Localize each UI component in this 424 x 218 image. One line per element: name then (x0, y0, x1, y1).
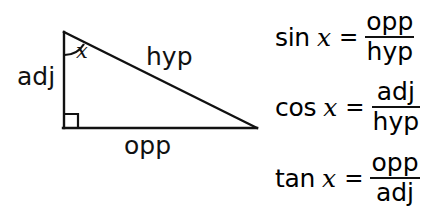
sin-fraction: opp hyp (365, 9, 414, 66)
sin-argument: x (317, 25, 331, 50)
tan-argument: x (322, 166, 336, 191)
formula-sin: sin x = opp hyp (275, 7, 414, 67)
sin-function-name: sin (275, 25, 310, 50)
tan-denominator: adj (375, 180, 415, 207)
tan-fraction: opp adj (370, 150, 419, 207)
cos-argument: x (323, 95, 337, 120)
right-angle-marker-icon (64, 114, 78, 128)
cos-equals-sign: = (345, 96, 364, 119)
sin-equals-sign: = (339, 26, 358, 49)
cos-numerator: adj (376, 79, 416, 106)
tan-function-name: tan (275, 166, 315, 191)
cos-denominator: hyp (372, 109, 421, 136)
trigonometry-figure: adj hyp opp x sin x = opp hyp cos x = ad… (0, 0, 424, 218)
right-triangle-diagram: adj hyp opp x (0, 0, 268, 218)
formula-tan: tan x = opp adj (275, 148, 420, 208)
sin-denominator: hyp (366, 39, 415, 66)
hypotenuse-side-label: hyp (146, 44, 193, 69)
trig-formula-list: sin x = opp hyp cos x = adj hyp tan x = (268, 0, 424, 218)
triangle-svg (0, 0, 268, 218)
formula-cos: cos x = adj hyp (275, 77, 420, 137)
sin-numerator: opp (365, 9, 414, 36)
cos-function-name: cos (275, 95, 316, 120)
adjacent-side-label: adj (17, 64, 55, 89)
angle-x-label: x (76, 41, 88, 62)
opposite-side-label: opp (124, 133, 171, 158)
tan-numerator: opp (370, 150, 419, 177)
tan-equals-sign: = (344, 167, 363, 190)
cos-fraction: adj hyp (372, 79, 421, 136)
